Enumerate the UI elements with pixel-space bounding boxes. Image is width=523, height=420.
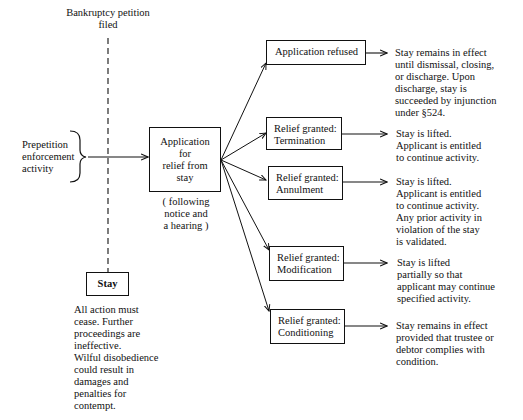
outcome-result-modification: Stay is lifted partially so that applica… <box>397 257 495 305</box>
outcome-box-application-refused: Application refused <box>266 40 366 65</box>
petition-label: Bankruptcy petition filed <box>62 7 154 31</box>
application-box: Application for relief from stay <box>149 127 221 192</box>
outcome-label: Relief granted: Annulment <box>276 172 342 196</box>
outcome-box-termination: Relief granted: Termination <box>266 117 342 150</box>
application-note: ( following notice and a hearing ) <box>160 196 212 232</box>
stay-description: All action must cease. Further proceedin… <box>74 304 158 412</box>
outcome-label: Application refused <box>275 46 365 58</box>
outcome-label: Relief granted: Termination <box>274 123 341 147</box>
arrow-to-application-refused <box>221 63 266 160</box>
stay-box: Stay <box>86 272 129 296</box>
outcome-result-conditioning: Stay remains in effect provided that tru… <box>396 320 494 368</box>
prepetition-label: Prepetition enforcement activity <box>22 139 74 175</box>
outcome-label: Relief granted: Conditioning <box>278 315 344 339</box>
application-label: Application for relief from stay <box>150 136 220 184</box>
outcome-box-modification: Relief granted: Modification <box>269 246 344 281</box>
arrow-to-annulment <box>221 160 266 180</box>
outcome-result-termination: Stay is lifted. Applicant is entitled to… <box>396 128 481 164</box>
stay-label: Stay <box>87 278 128 290</box>
outcome-box-conditioning: Relief granted: Conditioning <box>270 309 345 344</box>
outcome-result-annulment: Stay is lifted. Applicant is entitled to… <box>396 176 482 248</box>
outcome-result-application-refused: Stay remains in effect until dismissal, … <box>395 47 496 119</box>
outcome-label: Relief granted: Modification <box>277 252 343 276</box>
outcome-box-annulment: Relief granted: Annulment <box>268 166 343 200</box>
